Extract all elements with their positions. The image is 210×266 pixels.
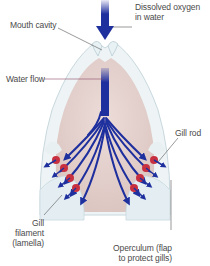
label-dissolved-oxygen: Dissolved oxygen in water <box>135 2 200 22</box>
label-gill-rod: Gill rod <box>175 128 201 138</box>
label-mouth-cavity: Mouth cavity <box>10 20 57 30</box>
label-gill-filament: Gill filament (lamella) <box>4 218 44 248</box>
label-line: to protect gills) <box>100 253 172 263</box>
label-line: Gill <box>4 218 44 228</box>
label-line: Dissolved oxygen <box>135 2 200 12</box>
label-line: Operculum (flap <box>100 243 172 253</box>
water-inflow-arrow <box>96 0 114 40</box>
label-water-flow: Water flow <box>6 74 45 84</box>
label-line: filament <box>4 228 44 238</box>
label-operculum: Operculum (flap to protect gills) <box>100 243 172 263</box>
label-line: (lamella) <box>4 238 44 248</box>
label-line: in water <box>135 12 200 22</box>
